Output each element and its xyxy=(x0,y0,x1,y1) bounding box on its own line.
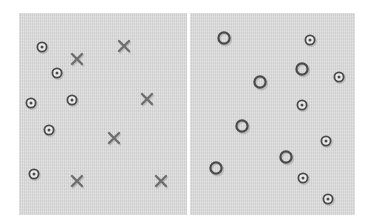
right-panel xyxy=(190,13,355,215)
left-panel xyxy=(19,13,187,215)
